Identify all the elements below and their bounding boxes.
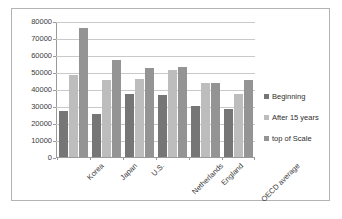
x-category-label: Japan xyxy=(119,162,139,182)
y-tick-mark xyxy=(53,107,56,108)
bar xyxy=(191,106,200,157)
y-tick-mark xyxy=(53,90,56,91)
bar xyxy=(79,28,88,157)
legend-label: After 15 years xyxy=(272,114,319,122)
bar xyxy=(244,80,253,157)
bar-group xyxy=(156,22,189,157)
bar xyxy=(102,80,111,157)
bars-layer xyxy=(57,22,255,157)
x-category-label: U.S. xyxy=(150,162,166,178)
legend-item: After 15 years xyxy=(264,113,334,122)
y-tick-mark xyxy=(53,158,56,159)
bar xyxy=(158,95,167,157)
plot-area: 8000070000600005000040000300002000010000… xyxy=(56,22,255,158)
y-tick-label: 0 xyxy=(48,154,52,162)
y-tick-label: 10000 xyxy=(31,137,52,145)
legend-label: top of Scale xyxy=(272,135,312,143)
legend-item: top of Scale xyxy=(264,134,334,143)
y-tick-label: 80000 xyxy=(31,18,52,26)
bar xyxy=(145,68,154,157)
bar xyxy=(178,67,187,157)
bar xyxy=(69,75,78,157)
y-tick-label: 40000 xyxy=(31,86,52,94)
y-tick-label: 30000 xyxy=(31,103,52,111)
bar xyxy=(201,83,210,157)
bar-group xyxy=(123,22,156,157)
legend-swatch xyxy=(264,136,269,141)
bar xyxy=(112,60,121,157)
bar xyxy=(168,70,177,157)
legend-swatch xyxy=(264,94,269,99)
y-tick-mark xyxy=(53,141,56,142)
bar xyxy=(125,94,134,157)
bar xyxy=(224,109,233,157)
bar xyxy=(59,111,68,157)
y-tick-mark xyxy=(53,124,56,125)
bar-group xyxy=(90,22,123,157)
y-tick-label: 50000 xyxy=(31,69,52,77)
bar xyxy=(211,83,220,157)
chart-frame: 8000070000600005000040000300002000010000… xyxy=(11,8,330,201)
bar-group xyxy=(57,22,90,157)
x-category-label: OECD average xyxy=(260,162,301,203)
y-tick-label: 20000 xyxy=(31,120,52,128)
y-tick-mark xyxy=(53,22,56,23)
chart-legend: BeginningAfter 15 yearstop of Scale xyxy=(264,92,334,155)
legend-swatch xyxy=(264,115,269,120)
bar-group xyxy=(222,22,255,157)
bar xyxy=(92,114,101,157)
x-category-label: Korea xyxy=(85,162,104,181)
y-tick-mark xyxy=(53,56,56,57)
bar-group xyxy=(189,22,222,157)
legend-item: Beginning xyxy=(264,92,334,101)
x-axis-category-labels: KoreaJapanU.S.NetherlandsEnglandOECD ave… xyxy=(57,159,256,203)
y-tick-mark xyxy=(53,73,56,74)
bar xyxy=(135,79,144,157)
y-tick-mark xyxy=(53,39,56,40)
legend-label: Beginning xyxy=(272,93,305,101)
bar xyxy=(234,94,243,157)
y-tick-label: 70000 xyxy=(31,35,52,43)
y-tick-label: 60000 xyxy=(31,52,52,60)
